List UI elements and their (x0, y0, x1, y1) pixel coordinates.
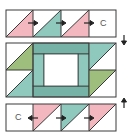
right-bottom-green-hst (89, 70, 116, 97)
bottom-plain-square-label: C (15, 113, 22, 122)
left-top-green-hst (6, 43, 33, 70)
center-block (6, 43, 116, 97)
top-plain-square-label: C (100, 19, 107, 28)
arrow-down-icon (122, 35, 127, 45)
center-framed-square (33, 43, 89, 97)
right-top-teal-hst (89, 43, 116, 70)
left-bottom-teal-hst (6, 70, 33, 97)
bottom-row (6, 104, 116, 131)
arrow-up-icon (122, 98, 127, 108)
